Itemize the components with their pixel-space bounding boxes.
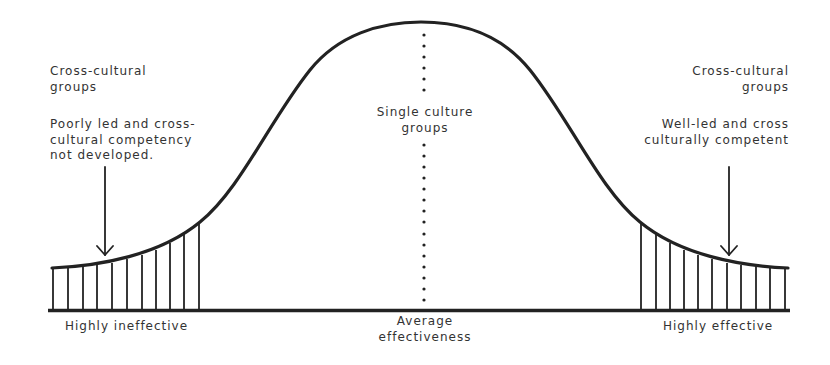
axis-label-line: Average: [325, 314, 525, 330]
right-group-title-line: Cross-cultural: [692, 64, 789, 80]
right-description-line: Well-led and cross: [644, 117, 789, 133]
axis-label-highly-effective: Highly effective: [663, 319, 773, 335]
axis-label-average-effectiveness: Average effectiveness: [325, 314, 525, 345]
right-group-title: Cross-cultural groups: [692, 64, 789, 95]
right-group-title-line: groups: [692, 80, 789, 96]
axis-label-highly-ineffective: Highly ineffective: [65, 319, 188, 335]
axis-label-line: effectiveness: [325, 330, 525, 346]
left-description: Poorly led and cross- cultural competenc…: [50, 117, 196, 164]
left-group-title: Cross-cultural groups: [50, 64, 147, 95]
left-description-line: cultural competency: [50, 133, 196, 149]
down-arrow-icon: [97, 167, 113, 255]
bell-curve-diagram: Cross-cultural groups Poorly led and cro…: [0, 0, 830, 365]
down-arrow-icon: [721, 167, 737, 255]
center-group-title: Single culture groups: [325, 105, 525, 136]
center-group-title-line: Single culture: [325, 105, 525, 121]
right-description-line: culturally competent: [644, 133, 789, 149]
diagram-graphics: [0, 0, 830, 365]
center-group-title-line: groups: [325, 121, 525, 137]
left-description-line: not developed.: [50, 148, 196, 164]
mean-dotted-line: [422, 33, 425, 301]
right-description: Well-led and cross culturally competent: [644, 117, 789, 148]
left-group-title-line: groups: [50, 80, 147, 96]
left-group-title-line: Cross-cultural: [50, 64, 147, 80]
left-description-line: Poorly led and cross-: [50, 117, 196, 133]
